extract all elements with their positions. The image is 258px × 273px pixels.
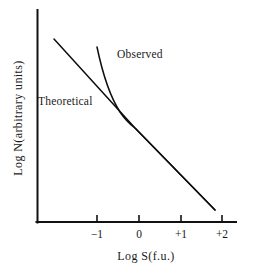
- x-tick-label-pos1: +1: [175, 228, 187, 240]
- x-axis-title: Log S(f.u.): [117, 249, 174, 263]
- source-counts-chart: −1 0 +1 +2 Log S(f.u.) Log N(arbitrary u…: [0, 0, 258, 273]
- observed-curve: [97, 47, 215, 210]
- observed-series-label: Observed: [117, 48, 163, 60]
- theoretical-series-label: Theoretical: [38, 95, 93, 107]
- y-axis-title: Log N(arbitrary units): [11, 60, 25, 175]
- x-tick-label-pos2: +2: [216, 228, 228, 240]
- figure-container: −1 0 +1 +2 Log S(f.u.) Log N(arbitrary u…: [0, 0, 258, 273]
- x-tick-label-0: 0: [136, 228, 142, 240]
- x-tick-label-neg1: −1: [91, 228, 103, 240]
